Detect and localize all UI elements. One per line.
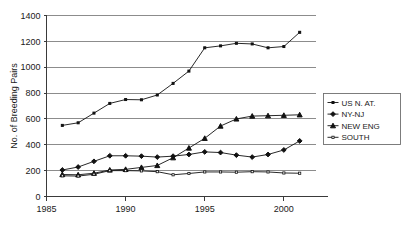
data-point-marker: [107, 153, 112, 158]
data-point-marker: [204, 47, 206, 49]
data-point-marker: [77, 122, 79, 124]
data-point-marker: [250, 155, 255, 160]
chart-container: 0200400600800100012001400 19851990199520…: [0, 0, 408, 243]
y-tick-label: 400: [25, 140, 40, 150]
y-tick-label: 800: [25, 88, 40, 98]
data-point-marker: [267, 47, 269, 49]
data-point-marker: [125, 99, 127, 101]
cropped-title-artifact: [52, 0, 352, 5]
data-point-marker: [220, 45, 222, 47]
data-point-marker: [204, 171, 206, 173]
series-line: [62, 32, 299, 125]
data-point-marker: [283, 172, 285, 174]
data-point-marker: [93, 173, 95, 175]
series-group: [60, 31, 302, 177]
data-point-marker: [299, 31, 301, 33]
data-point-marker: [139, 165, 144, 170]
data-point-marker: [299, 172, 301, 174]
x-axis: [47, 197, 328, 201]
legend-item-label: US N. AT.: [342, 99, 376, 108]
y-tick-labels: 0200400600800100012001400: [20, 11, 40, 202]
data-point-marker: [123, 153, 128, 158]
x-tick-label: 2000: [274, 204, 294, 214]
data-point-marker: [234, 116, 239, 121]
series-2: [60, 139, 302, 173]
data-point-marker: [297, 139, 302, 144]
data-point-marker: [172, 82, 174, 84]
y-axis-title: No. of Breeding Pairs: [9, 63, 19, 149]
data-point-marker: [186, 146, 191, 151]
data-point-marker: [156, 94, 158, 96]
series-line: [62, 171, 299, 176]
data-point-marker: [140, 170, 142, 172]
series-1: [61, 31, 300, 126]
data-point-marker: [332, 102, 334, 104]
y-tick-label: 0: [35, 192, 40, 202]
y-tick-label: 600: [25, 114, 40, 124]
data-point-marker: [297, 112, 302, 117]
data-point-marker: [219, 171, 221, 173]
data-point-marker: [76, 165, 81, 170]
data-point-marker: [235, 42, 237, 44]
line-chart: 0200400600800100012001400 19851990199520…: [0, 0, 408, 243]
data-point-marker: [283, 46, 285, 48]
data-point-marker: [188, 172, 190, 174]
data-point-marker: [267, 171, 269, 173]
x-tick-label: 1985: [36, 204, 56, 214]
data-point-marker: [92, 159, 97, 164]
y-tick-label: 200: [25, 166, 40, 176]
data-point-marker: [61, 124, 63, 126]
data-point-marker: [109, 170, 111, 172]
y-tick-label: 1400: [20, 11, 40, 21]
data-point-marker: [61, 175, 63, 177]
data-point-marker: [155, 155, 160, 160]
data-point-marker: [281, 148, 286, 153]
data-point-marker: [156, 171, 158, 173]
data-point-marker: [109, 102, 111, 104]
data-point-marker: [250, 114, 255, 119]
x-tick-labels: 1985199019952000: [36, 204, 293, 214]
data-point-marker: [172, 174, 174, 176]
data-point-marker: [188, 70, 190, 72]
data-point-marker: [139, 154, 144, 159]
data-point-marker: [266, 113, 271, 118]
data-point-marker: [187, 152, 192, 157]
data-point-marker: [266, 152, 271, 157]
data-point-marker: [218, 150, 223, 155]
y-tick-label: 1200: [20, 37, 40, 47]
data-point-marker: [281, 113, 286, 118]
data-point-marker: [218, 124, 223, 129]
data-point-marker: [93, 112, 95, 114]
legend[interactable]: US N. AT.NY-NJNEW ENGSOUTH: [324, 94, 401, 145]
y-axis-title-text: No. of Breeding Pairs: [9, 63, 19, 149]
data-point-marker: [155, 163, 160, 168]
data-point-marker: [235, 171, 237, 173]
y-axis: [44, 16, 47, 197]
data-point-marker: [140, 99, 142, 101]
data-point-marker: [202, 149, 207, 154]
legend-item-label: NEW ENG: [342, 122, 380, 131]
data-point-marker: [125, 170, 127, 172]
x-tick-label: 1990: [116, 204, 136, 214]
data-point-marker: [251, 43, 253, 45]
y-tick-label: 1000: [20, 62, 40, 72]
data-point-marker: [77, 175, 79, 177]
x-tick-label: 1995: [195, 204, 215, 214]
legend-item-label: SOUTH: [342, 133, 370, 142]
gridlines-group: [47, 16, 316, 171]
data-point-marker: [332, 136, 334, 138]
data-point-marker: [234, 153, 239, 158]
data-point-marker: [251, 171, 253, 173]
legend-item-label: NY-NJ: [342, 110, 365, 119]
